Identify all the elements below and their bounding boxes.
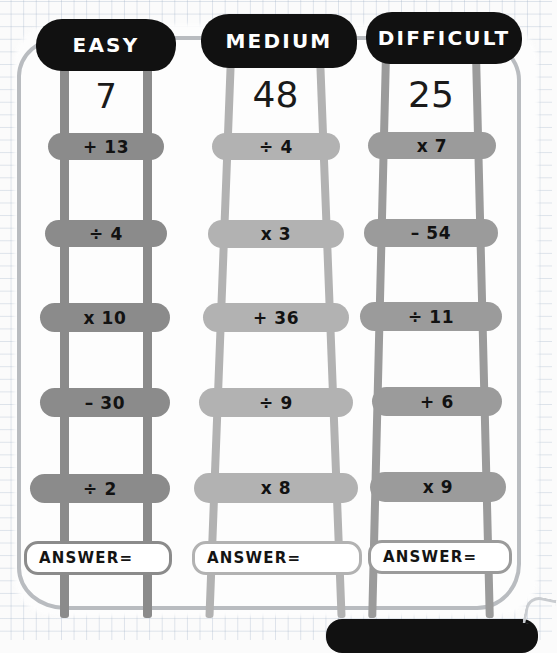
ladder-difficult-step-2[interactable]: – 54: [364, 219, 498, 247]
ladder-medium-step-3[interactable]: + 36: [203, 303, 349, 332]
ladder-easy-answer-box[interactable]: ANSWER=: [24, 541, 172, 575]
bottom-black-bar: [326, 619, 538, 653]
ladder-easy-step-4[interactable]: – 30: [40, 388, 170, 417]
ladder-difficult-answer-label: ANSWER=: [371, 548, 477, 566]
ladder-difficult-step-3[interactable]: ÷ 11: [360, 302, 502, 331]
ladder-medium-step-1[interactable]: ÷ 4: [212, 133, 340, 160]
ladder-difficult-answer-box[interactable]: ANSWER=: [368, 540, 512, 574]
ladder-medium-answer-box[interactable]: ANSWER=: [192, 541, 362, 575]
header-pill-easy[interactable]: EASY: [36, 19, 176, 71]
ladder-difficult-step-1[interactable]: x 7: [368, 132, 496, 159]
ladder-medium-step-2[interactable]: x 3: [208, 220, 344, 248]
ladder-easy-step-5[interactable]: ÷ 2: [30, 474, 170, 503]
ladder-difficult-step-5[interactable]: x 9: [370, 472, 506, 502]
ladder-easy-step-2[interactable]: ÷ 4: [45, 220, 167, 247]
ladder-easy-step-3[interactable]: x 10: [40, 303, 170, 332]
ladder-medium-step-5[interactable]: x 8: [194, 473, 358, 503]
ladder-difficult-step-4[interactable]: + 6: [372, 387, 502, 416]
ladder-easy-start-number: 7: [60, 76, 152, 116]
ladder-medium-step-4[interactable]: ÷ 9: [199, 388, 353, 417]
ladder-medium-start-number: 48: [227, 74, 324, 115]
ladder-easy-step-1[interactable]: + 13: [48, 133, 164, 160]
ladder-easy-answer-label: ANSWER=: [27, 549, 133, 567]
header-pill-medium[interactable]: MEDIUM: [201, 14, 357, 68]
ladder-medium-answer-label: ANSWER=: [195, 549, 301, 567]
header-pill-difficult[interactable]: DIFFICULT: [366, 12, 522, 64]
ladder-difficult-start-number: 25: [382, 74, 480, 115]
